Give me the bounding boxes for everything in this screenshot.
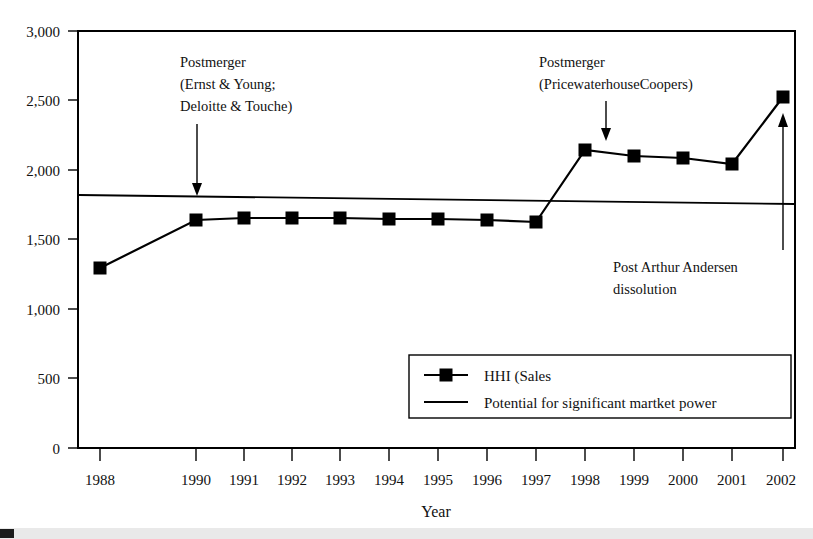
bottom-band (0, 528, 813, 539)
x-axis-label-1993: 1993 (325, 472, 355, 488)
x-axis-label-1998: 1998 (570, 472, 600, 488)
data-point-1990 (190, 214, 202, 226)
x-axis-label-2000: 2000 (668, 472, 698, 488)
data-point-1996 (481, 214, 493, 226)
annotation-arthur-andersen-line-1: Post Arthur Andersen (613, 259, 739, 275)
annotation-pwc: Postmerger (PricewaterhouseCoopers) (539, 54, 693, 141)
data-point-1994 (383, 213, 395, 225)
data-point-2002 (777, 91, 789, 103)
data-point-1988 (94, 262, 106, 274)
data-point-2001 (726, 158, 738, 170)
chart-svg: 3,000 2,500 2,000 1,500 1,000 500 0 (0, 0, 813, 539)
annotation-ernst-young-line-3: Deloitte & Touche) (180, 98, 292, 115)
x-axis-label-2001: 2001 (717, 472, 747, 488)
x-axis-label-1991: 1991 (229, 472, 259, 488)
legend-swatch-hhi-marker-icon (440, 369, 452, 381)
annotation-ernst-young-arrow-head-icon (192, 183, 202, 196)
x-axis-label-1990: 1990 (181, 472, 211, 488)
annotation-pwc-arrow-head-icon (601, 128, 611, 141)
y-axis-labels: 3,000 2,500 2,000 1,500 1,000 500 0 (26, 24, 60, 457)
reference-line-potential-market-power (79, 195, 794, 204)
x-axis-label-1995: 1995 (423, 472, 453, 488)
x-axis-label-1988: 1988 (85, 472, 115, 488)
y-axis-label-2000: 2,000 (26, 163, 60, 179)
annotation-ernst-young: Postmerger (Ernst & Young; Deloitte & To… (180, 54, 292, 196)
x-axis-label-1996: 1996 (472, 472, 503, 488)
y-axis-label-2500: 2,500 (26, 93, 60, 109)
annotation-pwc-line-2: (PricewaterhouseCoopers) (539, 76, 693, 93)
annotation-arthur-andersen-arrow-head-icon (778, 113, 788, 127)
data-point-1992 (286, 212, 298, 224)
x-axis-label-1997: 1997 (521, 472, 552, 488)
x-axis-title: Year (421, 503, 451, 520)
data-point-1997 (530, 216, 542, 228)
legend-label-potential: Potential for significant martket power (484, 395, 716, 411)
chart-legend: HHI (Sales Potential for significant mar… (409, 355, 791, 418)
data-point-2000 (677, 152, 689, 164)
x-axis-labels: 1988 1990 1991 1992 1993 1994 1995 1996 … (85, 472, 796, 488)
x-axis-label-2002: 2002 (766, 472, 796, 488)
data-point-1995 (432, 213, 444, 225)
y-axis-label-1500: 1,500 (26, 232, 60, 248)
x-axis-ticks (100, 448, 783, 461)
hhi-series-markers (94, 91, 789, 274)
y-axis-ticks (68, 31, 78, 448)
y-axis-label-1000: 1,000 (26, 302, 60, 318)
annotation-ernst-young-line-2: (Ernst & Young; (180, 76, 275, 93)
bottom-band-dark-segment (0, 529, 14, 538)
data-point-1993 (334, 212, 346, 224)
y-axis-label-0: 0 (53, 441, 61, 457)
hhi-series-line (100, 97, 783, 268)
data-point-1999 (628, 150, 640, 162)
x-axis-label-1992: 1992 (277, 472, 307, 488)
legend-label-hhi: HHI (Sales (484, 368, 551, 385)
data-point-1991 (238, 212, 250, 224)
annotation-pwc-line-1: Postmerger (539, 54, 605, 70)
annotation-ernst-young-line-1: Postmerger (180, 54, 246, 70)
chart-figure: 3,000 2,500 2,000 1,500 1,000 500 0 (0, 0, 813, 539)
annotation-arthur-andersen: Post Arthur Andersen dissolution (613, 113, 788, 297)
annotation-arthur-andersen-line-2: dissolution (613, 281, 677, 297)
x-axis-label-1994: 1994 (374, 472, 405, 488)
y-axis-label-3000: 3,000 (26, 24, 60, 40)
y-axis-label-500: 500 (38, 371, 61, 387)
data-point-1998 (579, 144, 591, 156)
x-axis-label-1999: 1999 (619, 472, 649, 488)
